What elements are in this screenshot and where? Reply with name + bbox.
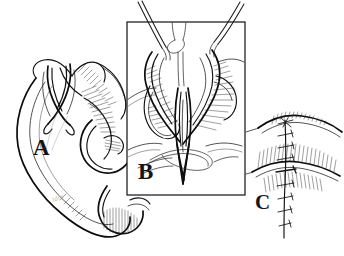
incision-wound-edges <box>43 64 76 135</box>
figure-canvas: A B C ldrs <box>0 0 344 256</box>
surgical-illustration <box>0 0 344 256</box>
helix-fold-hatching <box>78 64 116 105</box>
incision-closure-line <box>284 120 286 238</box>
panel-label-b: B <box>138 160 153 183</box>
panel-label-c: C <box>255 192 270 213</box>
concha-shadow-hatching <box>105 140 121 151</box>
panel-label-a: A <box>33 136 50 159</box>
panel-c-closed-repair <box>246 112 342 238</box>
